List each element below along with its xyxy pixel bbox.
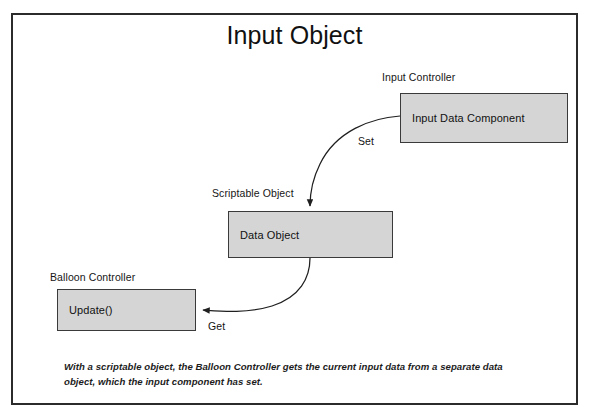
group-label-balloon-controller: Balloon Controller bbox=[50, 271, 135, 283]
group-label-input-controller: Input Controller bbox=[382, 71, 455, 83]
node-input-data-component[interactable]: Input Data Component bbox=[400, 93, 568, 143]
group-label-scriptable-object: Scriptable Object bbox=[212, 187, 294, 199]
node-label-update: Update() bbox=[58, 304, 113, 316]
node-data-object[interactable]: Data Object bbox=[228, 211, 393, 258]
figure-caption: With a scriptable object, the Balloon Co… bbox=[64, 359, 506, 389]
diagram-title: Input Object bbox=[11, 21, 578, 50]
edge-label-get: Get bbox=[208, 320, 225, 332]
node-label-input-data-component: Input Data Component bbox=[401, 112, 525, 124]
diagram-frame bbox=[11, 13, 578, 405]
node-label-data-object: Data Object bbox=[229, 229, 299, 241]
diagram-canvas: Input Object Input Controller Scriptable… bbox=[0, 0, 595, 417]
node-update[interactable]: Update() bbox=[57, 289, 196, 331]
edge-label-set: Set bbox=[358, 135, 374, 147]
